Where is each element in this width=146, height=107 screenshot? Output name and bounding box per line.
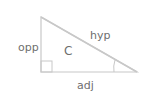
hyp-label: hyp: [90, 29, 110, 42]
hypotenuse-line: [41, 17, 137, 72]
angle-arc: [114, 60, 115, 72]
right-triangle-diagram: opp hyp adj C: [0, 0, 146, 107]
angle-label: C: [64, 44, 72, 58]
opp-label: opp: [18, 41, 39, 54]
adj-label: adj: [77, 79, 94, 92]
right-angle-marker: [41, 61, 52, 72]
